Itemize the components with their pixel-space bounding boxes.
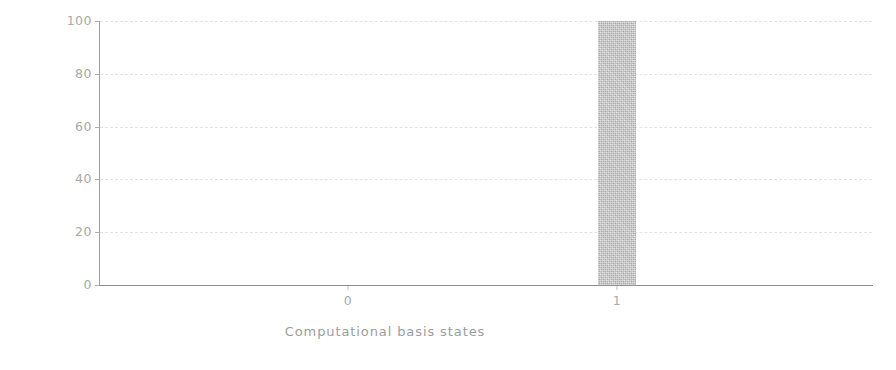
bar-state-1[interactable] (598, 21, 636, 285)
x-tick-mark-0 (348, 286, 349, 290)
plot-area (100, 21, 872, 285)
y-tick-mark-20 (95, 232, 99, 233)
y-axis-spine (99, 21, 100, 286)
x-axis-spine (99, 285, 873, 286)
y-tick-mark-60 (95, 127, 99, 128)
x-tick-label-0: 0 (328, 295, 368, 308)
y-tick-mark-40 (95, 179, 99, 180)
y-axis-title-holder: Probability (% of 1024 shots) (36, 0, 58, 370)
gridline-80 (100, 74, 872, 75)
gridline-60 (100, 127, 872, 128)
histogram-figure: 100 80 60 40 20 0 0 1 Probability (% of … (0, 0, 896, 370)
x-tick-label-1: 1 (597, 295, 637, 308)
y-tick-mark-0 (95, 285, 99, 286)
gridline-100 (100, 21, 872, 22)
y-tick-mark-80 (95, 74, 99, 75)
y-tick-mark-100 (95, 21, 99, 22)
x-tick-mark-1 (617, 286, 618, 290)
gridline-40 (100, 179, 872, 180)
gridline-20 (100, 232, 872, 233)
x-axis-title-text: Computational basis states (285, 324, 485, 339)
x-axis-title: Computational basis states (100, 324, 872, 339)
